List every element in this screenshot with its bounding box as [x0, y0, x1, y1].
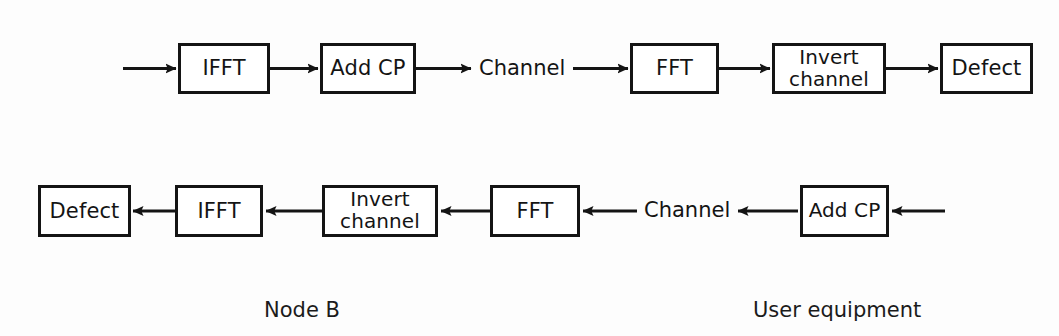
block-label: Defect — [948, 57, 1026, 80]
connector-layer — [0, 0, 1059, 336]
channel-text: Channel — [479, 56, 565, 80]
channel-text: Channel — [644, 198, 730, 222]
block-invert-channel-downlink[interactable]: Invert channel — [772, 43, 886, 94]
block-add-cp-uplink[interactable]: Add CP — [800, 185, 889, 237]
block-label: FFT — [652, 57, 697, 80]
block-ifft-downlink[interactable]: IFFT — [178, 43, 270, 94]
section-label-user-equipment: User equipment — [753, 298, 921, 322]
block-ifft-uplink[interactable]: IFFT — [175, 185, 263, 237]
block-defect-uplink[interactable]: Defect — [38, 185, 131, 237]
block-label: Add CP — [326, 57, 409, 80]
block-add-cp-downlink[interactable]: Add CP — [320, 43, 416, 94]
block-label: Invert channel — [785, 47, 873, 90]
label-channel-uplink: Channel — [644, 199, 730, 222]
section-label-text: User equipment — [753, 298, 921, 322]
block-label: Add CP — [805, 200, 885, 222]
block-label: Defect — [46, 200, 124, 223]
label-channel-downlink: Channel — [479, 57, 565, 80]
diagram-canvas: IFFT Add CP Channel FFT Invert channel D… — [0, 0, 1059, 336]
block-label: FFT — [513, 200, 558, 223]
block-fft-uplink[interactable]: FFT — [490, 185, 580, 237]
block-invert-channel-uplink[interactable]: Invert channel — [322, 185, 438, 237]
section-label-node-b: Node B — [264, 298, 340, 322]
block-label: IFFT — [198, 57, 249, 80]
block-label: Invert channel — [336, 189, 424, 232]
block-label: IFFT — [193, 200, 244, 223]
block-defect-downlink[interactable]: Defect — [940, 43, 1033, 94]
block-fft-downlink[interactable]: FFT — [630, 43, 719, 94]
section-label-text: Node B — [264, 298, 340, 322]
